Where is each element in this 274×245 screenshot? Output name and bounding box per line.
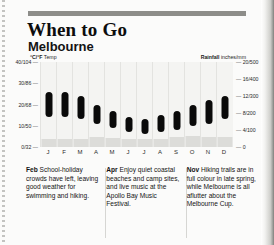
left-axis-tick: 20/68 — <box>18 102 38 108</box>
chart-column-december <box>216 62 233 147</box>
temperature-range-bar <box>94 105 101 124</box>
rainfall-bar <box>218 137 233 147</box>
month-label-march: M <box>72 148 88 157</box>
right-axis-tick: — 12/300 <box>236 93 259 99</box>
month-label-september: S <box>168 148 184 157</box>
temperature-range-bar <box>222 96 229 119</box>
right-axis-tick: — 4/100 <box>236 127 256 133</box>
page-perforation-edge <box>2 0 5 245</box>
temperature-range-bar <box>142 119 149 134</box>
chart-column-august <box>152 62 169 147</box>
right-axis-tick: — 16/400 <box>236 76 259 82</box>
chart-column-november <box>200 62 217 147</box>
seasonal-note-month: Nov <box>187 166 199 173</box>
rainfall-bar <box>170 137 185 147</box>
temperature-range-bar <box>62 92 69 118</box>
right-axis-tick: — 8/200 <box>236 110 256 116</box>
temperature-range-bar <box>190 105 197 126</box>
left-axis-tick: 30/86 — <box>18 80 38 86</box>
rainfall-bar <box>154 139 169 148</box>
left-axis-tick: 10/50 — <box>18 123 38 129</box>
rainfall-bar <box>58 139 73 147</box>
temperature-range-bar <box>206 100 213 123</box>
month-label-may: M <box>104 148 120 157</box>
chart-column-april <box>88 62 105 147</box>
seasonal-note-text: School-holiday crowds have left, leaving… <box>26 166 98 199</box>
rainfall-bar <box>138 139 153 147</box>
rainfall-bar <box>122 139 137 148</box>
right-axis-tick: — 20/500 <box>236 59 259 65</box>
month-label-july: J <box>136 148 152 157</box>
seasonal-note-month: Feb <box>26 166 38 173</box>
temperature-range-bar <box>158 115 165 132</box>
left-axis-caption-label: Temp <box>43 54 57 60</box>
month-label-october: O <box>184 148 200 157</box>
left-axis-tick: 40/104 — <box>15 59 38 65</box>
chart-column-january <box>40 62 57 147</box>
right-axis-tick: — 0 <box>236 144 246 150</box>
month-label-february: F <box>56 148 72 157</box>
month-label-june: J <box>120 148 136 157</box>
temperature-range-bar <box>78 96 85 119</box>
right-axis-caption-label: Rainfall <box>201 54 220 60</box>
chart-column-july <box>136 62 153 147</box>
temperature-range-bar <box>110 111 117 128</box>
chart-column-june <box>120 62 137 147</box>
seasonal-notes: Feb School-holiday crowds have left, lea… <box>26 166 260 240</box>
month-label-april: A <box>88 148 104 157</box>
chart-column-february <box>56 62 73 147</box>
seasonal-note: Nov Hiking trails are in full colour in … <box>187 166 260 240</box>
month-label-november: N <box>200 148 216 157</box>
rainfall-bar <box>106 138 121 147</box>
temperature-range-bar <box>46 92 53 118</box>
seasonal-note: Apr Enjoy quiet coastal beaches and camp… <box>106 166 179 240</box>
chart-column-october <box>184 62 201 147</box>
rainfall-bar <box>90 137 105 147</box>
rainfall-bar <box>74 139 89 148</box>
month-label-january: J <box>40 148 56 157</box>
temperature-range-bar <box>126 117 133 132</box>
seasonal-note-text: Enjoy quiet coastal beaches and camp sit… <box>106 166 179 207</box>
temperature-range-bar <box>174 111 181 130</box>
chart-column-march <box>72 62 89 147</box>
month-axis-labels: JFMAMJJASOND <box>40 148 232 158</box>
rainfall-bar <box>186 136 201 147</box>
page-subtitle-city: Melbourne <box>28 40 94 54</box>
chart-column-september <box>168 62 185 147</box>
header-rule <box>28 11 246 16</box>
left-axis-tick: 0/32 — <box>21 144 38 150</box>
page-background: When to Go Melbourne °C/°F Temp Rainfall… <box>0 0 274 245</box>
page-content: When to Go Melbourne °C/°F Temp Rainfall… <box>12 0 260 245</box>
climate-chart-plot-area <box>40 62 232 147</box>
seasonal-note: Feb School-holiday crowds have left, lea… <box>26 166 99 240</box>
page-gutter-shadow <box>261 0 274 245</box>
month-label-december: D <box>216 148 232 157</box>
rainfall-bar <box>42 139 57 147</box>
month-label-august: A <box>152 148 168 157</box>
chart-column-may <box>104 62 121 147</box>
seasonal-note-month: Apr <box>106 166 117 173</box>
page-title: When to Go <box>27 19 127 40</box>
rainfall-bar <box>202 137 217 147</box>
